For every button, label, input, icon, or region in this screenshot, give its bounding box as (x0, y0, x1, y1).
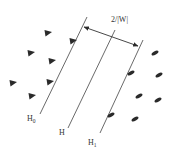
triangle-marker (47, 79, 55, 86)
triangle-marker (70, 38, 78, 45)
hyperplane-labels: H0HH1 (27, 114, 97, 148)
triangle-marker (28, 50, 36, 57)
hyperplane-lines (40, 17, 143, 133)
ellipse-marker (135, 93, 143, 100)
triangle-marker (10, 80, 18, 87)
label-h1: H1 (88, 138, 97, 148)
triangle-marker (29, 93, 37, 100)
label-h0: H0 (27, 114, 36, 124)
ellipse-marker (154, 97, 162, 104)
svm-margin-diagram: 2/|W| H0HH1 (0, 0, 175, 154)
hyperplane-h (68, 30, 115, 128)
margin-label: 2/|W| (111, 15, 128, 24)
ellipse-marker (151, 50, 159, 57)
margin-arrow (84, 27, 138, 46)
triangle-marker (49, 58, 57, 65)
triangle-marker (45, 30, 53, 37)
ellipse-marker (155, 72, 163, 79)
class-a-triangle-markers (10, 30, 78, 100)
label-h: H (59, 128, 65, 137)
ellipse-marker (131, 116, 139, 123)
class-b-ellipse-markers (107, 50, 163, 123)
